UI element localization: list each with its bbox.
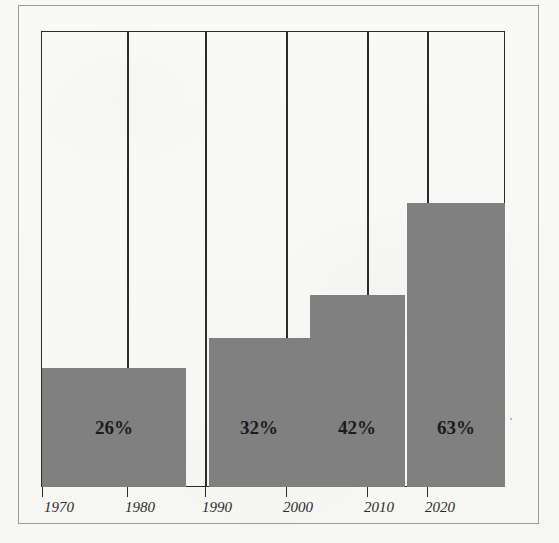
gridline: [205, 31, 207, 487]
bar: [310, 295, 405, 487]
x-axis-tick: [286, 487, 287, 497]
bar-value-label: 42%: [327, 418, 387, 437]
x-axis-tick-label: 1980: [125, 500, 155, 515]
x-axis-tick: [205, 487, 206, 497]
x-axis-tick-label: 2020: [425, 500, 455, 515]
bar: [407, 203, 505, 487]
bar-value-label: 63%: [426, 418, 486, 437]
x-axis-tick: [367, 487, 368, 497]
bar: [209, 338, 310, 487]
bar-value-label: 32%: [229, 418, 289, 437]
x-axis-tick: [427, 487, 428, 497]
bar-value-label: 26%: [84, 418, 144, 437]
figure-page: 197019801990200020102020 26%32%42%63%: [0, 0, 559, 543]
x-axis-tick-label: 2000: [283, 500, 313, 515]
x-axis-tick-label: 2010: [364, 500, 394, 515]
x-axis-tick-label: 1990: [202, 500, 232, 515]
x-axis-tick-label: 1970: [44, 500, 74, 515]
print-speck: [510, 418, 512, 420]
x-axis-tick: [42, 487, 43, 497]
x-axis-tick: [127, 487, 128, 497]
